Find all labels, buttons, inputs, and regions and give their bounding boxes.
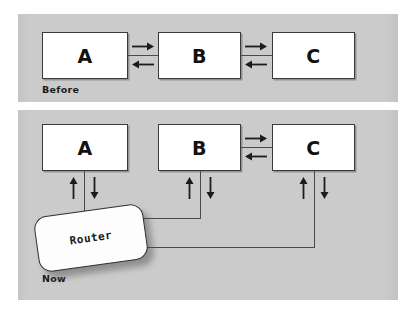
link-line-c-router-horizontal (130, 247, 315, 248)
arrow-down-icon (205, 176, 216, 200)
arrow-up-icon (68, 176, 79, 200)
node-label: B (159, 45, 240, 67)
link-line-b-c (241, 55, 272, 56)
caption-before: Before (42, 84, 79, 95)
diagram-canvas: A B C (0, 0, 409, 314)
arrow-left-icon (244, 59, 268, 70)
node-a-now: A (42, 124, 128, 171)
node-label: A (43, 45, 127, 67)
arrow-right-icon (244, 41, 268, 52)
arrow-down-icon (319, 176, 330, 200)
node-c-before: C (272, 32, 355, 79)
node-c-now: C (272, 124, 355, 171)
node-label: C (273, 137, 354, 159)
arrow-left-icon (244, 151, 268, 162)
arrow-up-icon (184, 176, 195, 200)
router-label: Router (37, 224, 146, 252)
node-a-before: A (42, 32, 128, 79)
panel-before: A B C (18, 14, 398, 102)
node-label: A (43, 137, 127, 159)
arrow-right-icon (244, 133, 268, 144)
node-label: C (273, 45, 354, 67)
arrow-left-icon (131, 59, 155, 70)
arrow-right-icon (131, 41, 155, 52)
link-line-c-router-vertical (314, 171, 315, 247)
node-label: B (159, 137, 240, 159)
link-line-b-c (241, 147, 272, 148)
arrow-down-icon (89, 176, 100, 200)
link-line-b-router-vertical (200, 171, 201, 218)
node-b-before: B (158, 32, 241, 79)
arrow-up-icon (298, 176, 309, 200)
node-b-now: B (158, 124, 241, 171)
link-line-a-b (128, 55, 158, 56)
